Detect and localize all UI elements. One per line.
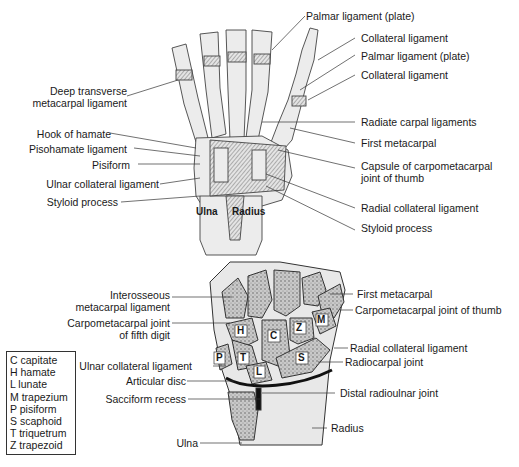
radius-bone-label: Radius [232, 206, 265, 218]
bone-letter-pisiform: P [216, 352, 223, 364]
legend-item: M trapezium [10, 391, 72, 403]
label-articular-disc: Articular disc [126, 375, 186, 387]
label-distal-radioulnar-joint: Distal radioulnar joint [340, 387, 438, 399]
legend-item: P pisiform [10, 403, 72, 415]
label-palmar-ligament-plate-1: Palmar ligament (plate) [306, 10, 415, 22]
bone-letter-triquetrum: T [240, 352, 246, 364]
label-first-metacarpal-top: First metacarpal [361, 137, 436, 149]
label-collateral-ligament-1: Collateral ligament [361, 32, 448, 44]
label-radiate-carpal-ligaments: Radiate carpal ligaments [361, 116, 477, 128]
label-cmc-joint-fifth-digit: Carpometacarpal joint of fifth digit [67, 317, 170, 341]
label-hook-of-hamate: Hook of hamate [37, 128, 111, 140]
legend-item: S scaphoid [10, 415, 72, 427]
label-radiocarpal-joint: Radiocarpal joint [345, 356, 423, 368]
third-metacarpal [226, 30, 246, 140]
label-ulnar-collateral-ligament-top: Ulnar collateral ligament [46, 178, 159, 190]
legend-item: T triquetrum [10, 427, 72, 439]
label-ulnar-collateral-ligament-bottom: Ulnar collateral ligament [79, 360, 192, 372]
legend-item: C capitate [10, 354, 72, 366]
legend-item: Z trapezoid [10, 439, 72, 451]
label-sacciform-recess: Sacciform recess [105, 393, 186, 405]
label-radius-bottom: Radius [331, 422, 364, 434]
label-pisiform: Pisiform [92, 159, 130, 171]
label-ulna-bottom: Ulna [176, 437, 198, 449]
label-deep-transverse-metacarpal-ligament: Deep transverse metacarpal ligament [32, 85, 127, 109]
label-pisohamate-ligament: Pisohamate ligament [29, 143, 127, 155]
bone-letter-trapezoid: Z [296, 322, 302, 334]
bone-letter-trapezium: M [317, 314, 325, 326]
label-palmar-ligament-plate-2: Palmar ligament (plate) [361, 50, 470, 62]
label-capsule-cmc-thumb: Capsule of carpometacarpal joint of thum… [361, 160, 492, 184]
label-collateral-ligament-2: Collateral ligament [361, 69, 448, 81]
legend-item: L lunate [10, 378, 72, 390]
label-radial-collateral-ligament-bottom: Radial collateral ligament [350, 342, 467, 354]
ulna-bone-label: Ulna [196, 206, 218, 218]
label-radial-collateral-ligament-top: Radial collateral ligament [361, 202, 478, 214]
second-metacarpal [246, 30, 272, 140]
hand-palmar-view [172, 28, 318, 255]
label-cmc-joint-thumb: Carpometacarpal joint of thumb [355, 304, 502, 316]
label-interosseous-metacarpal-ligament: Interosseous metacarpal ligament [75, 289, 170, 313]
legend-item: H hamate [10, 366, 72, 378]
thumb [268, 28, 318, 158]
bone-letter-scaphoid: S [298, 352, 305, 364]
label-styloid-process-ulna: Styloid process [47, 196, 118, 208]
wrist-coronal-section [210, 262, 345, 445]
bone-letter-lunate: L [256, 366, 262, 378]
label-styloid-process-radius: Styloid process [361, 222, 432, 234]
bone-letter-capitate: C [270, 330, 277, 342]
label-first-metacarpal-bottom: First metacarpal [357, 288, 432, 300]
bone-abbreviation-legend: C capitate H hamate L lunate M trapezium… [6, 351, 76, 455]
bone-letter-hamate: H [237, 325, 244, 337]
